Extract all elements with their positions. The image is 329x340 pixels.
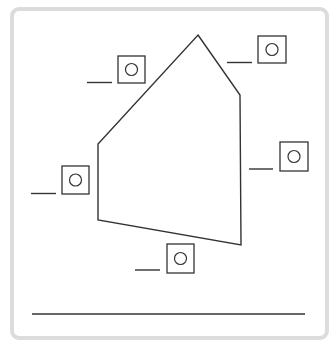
label-box (167, 244, 194, 273)
label-box (258, 36, 286, 63)
angle-label-right (249, 142, 308, 171)
circle-icon (70, 174, 82, 186)
circle-icon (288, 151, 300, 163)
label-box (62, 166, 89, 194)
angle-label-top-right (227, 36, 286, 63)
circle-icon (266, 44, 278, 56)
circle-icon (126, 64, 138, 76)
circle-icon (175, 253, 187, 265)
label-box (280, 142, 308, 171)
angle-label-top-left (87, 56, 145, 83)
pentagon-shape (98, 35, 241, 245)
angle-label-left (31, 166, 89, 194)
angle-label-bottom (135, 244, 194, 273)
label-box (118, 56, 145, 83)
